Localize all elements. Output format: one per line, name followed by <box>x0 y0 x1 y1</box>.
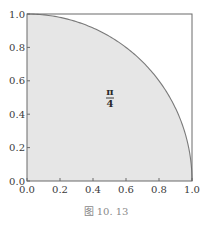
x-tick-label: 0.8 <box>151 184 167 195</box>
y-tick-label: 0.2 <box>9 142 25 153</box>
annotation-numerator: π <box>106 86 113 97</box>
figure-caption: 图 10. 13 <box>0 203 212 218</box>
pi-over-4-annotation: π 4 <box>106 86 114 109</box>
chart: 0.00.20.40.60.81.0 0.00.20.40.60.81.0 π … <box>0 0 212 230</box>
x-tick-label: 0.6 <box>118 184 134 195</box>
x-tick-label: 1.0 <box>184 184 200 195</box>
y-tick-label: 0.0 <box>9 176 25 187</box>
y-tick-label: 1.0 <box>9 9 25 20</box>
y-tick-label: 0.8 <box>9 42 25 53</box>
x-tick-label: 0.4 <box>85 184 101 195</box>
annotation-denominator: 4 <box>107 98 114 109</box>
x-tick-label: 0.2 <box>52 184 68 195</box>
y-tick-label: 0.6 <box>9 75 25 86</box>
y-tick-label: 0.4 <box>9 109 25 120</box>
